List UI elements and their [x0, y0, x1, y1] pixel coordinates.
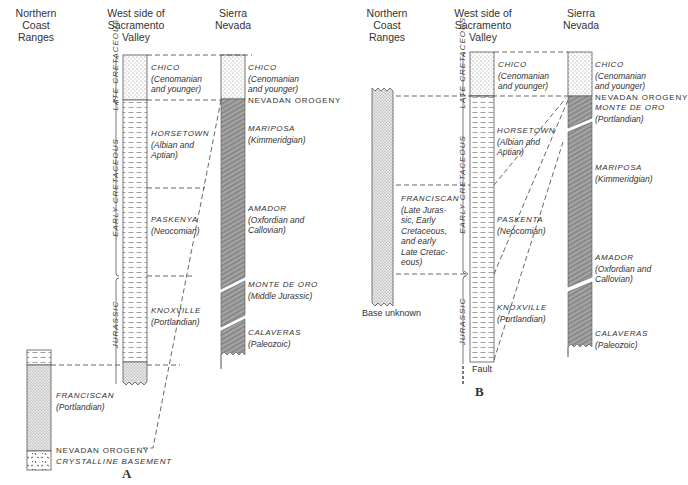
fig-b-caption-base-unknown: Base unknown	[362, 308, 421, 318]
fig-a-valley-unit-paskenya: PASKENYA(Neocomian)	[151, 215, 200, 236]
fig-b-caption-fault: Fault	[472, 364, 492, 374]
fig-a-sierra-column	[221, 55, 245, 369]
fig-b-sierra-nevadan-orogeny: NEVADAN OROGENY	[595, 93, 688, 102]
fig-b-valley-unit-knoxville: KNOXVILLE(Portlandian)	[497, 303, 547, 324]
fig-a-sierra-unit-calaveras: CALAVERAS(Paleozoic)	[248, 328, 301, 349]
fig-a-label: A	[122, 466, 131, 482]
fig-a-sierra-unit-monte-de-oro: MONTE DE ORO(Middle Jurassic)	[248, 280, 318, 301]
fig-b-sierra-column	[568, 52, 592, 357]
fig-a-sierra-nevadan-orogeny: NEVADAN OROGENY	[248, 96, 341, 105]
fig-b-sierra-unit-chico: CHICO(Cenomanianand younger)	[595, 60, 646, 92]
fig-b-sierra-unit-amador: AMADOR(Oxfordian andCallovian)	[595, 253, 651, 285]
fig-b-coast-unit-franciscan: FRANCISCAN (Late Juras- sic, Early Creta…	[401, 194, 459, 268]
fig-b-valley-unit-chico: CHICO(Cenomanianand younger)	[498, 60, 549, 92]
fig-a-period-late-cretaceous: LATE CRETACEOUS	[111, 41, 120, 111]
fig-b-sierra-unit-monte-de-oro: MONTE DE ORO(Portlandian)	[595, 103, 665, 124]
fig-b-valley-unit-horsetown: HORSETOWN(Albian andAptian)	[497, 126, 555, 158]
fig-b-sierra-unit-mariposa: MARIPOSA(Kimmeridgian)	[595, 163, 653, 184]
fig-a-valley-unit-chico: CHICO(Cenomanianand younger)	[151, 63, 202, 95]
fig-a-header-sierra: Sierra Nevada	[208, 7, 258, 31]
fig-a-header-coast: Northern Coast Ranges	[6, 7, 66, 43]
fig-a-sierra-unit-amador: AMADOR(Oxfordian andCallovian)	[248, 204, 304, 236]
fig-b-valley-unit-paskenta: PASKENTA(Neocomian)	[497, 215, 546, 236]
fig-b-header-coast: Northern Coast Ranges	[357, 7, 417, 43]
fig-b-coast-column	[372, 88, 393, 306]
fig-a-valley-unit-knoxville: KNOXVILLE(Portlandian)	[151, 306, 201, 327]
fig-a-sierra-unit-chico: CHICO(Cenomanianand younger)	[248, 63, 299, 95]
fig-b-header-sierra: Sierra Nevada	[556, 7, 606, 31]
fig-b-period-late-cretaceous: LATE CRETACEOUS	[458, 39, 467, 109]
fig-a-caption-crystalline-basement: CRYSTALLINE BASEMENT	[56, 457, 172, 466]
fig-a-valley-unit-horsetown: HORSETOWN(Albian andAptian)	[151, 129, 209, 161]
fig-a-caption-nevadan-orogeny: NEVADAN OROGENY	[56, 446, 149, 455]
fig-a-period-jurassic: JURASSIC	[111, 285, 120, 365]
fig-a-sierra-unit-mariposa: MARIPOSA(Kimmeridgian)	[248, 124, 306, 145]
fig-b-valley-column	[470, 52, 494, 362]
fig-b-sierra-unit-calaveras: CALAVERAS(Paleozoic)	[595, 329, 648, 350]
fig-b-period-jurassic: JURASSIC	[458, 282, 467, 362]
fig-b-label: B	[475, 384, 484, 400]
fig-a-coast-unit-franciscan: FRANCISCAN(Portlandian)	[56, 391, 114, 412]
fig-a-valley-column	[123, 55, 147, 385]
fig-a-period-early-cretaceous: EARLY CRETACEOUS	[111, 123, 120, 253]
fig-a-coast-column	[27, 350, 51, 470]
